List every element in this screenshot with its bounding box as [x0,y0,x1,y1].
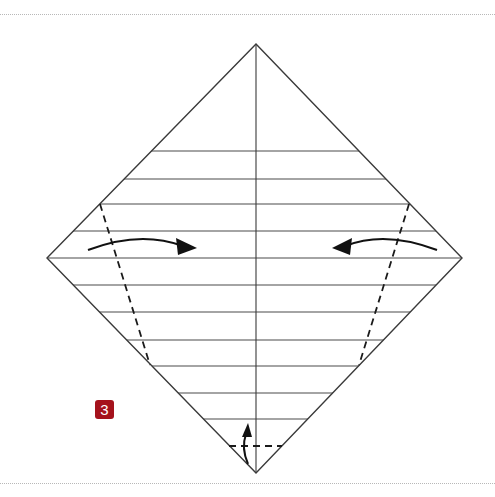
fold-up-arrow-icon [242,423,252,464]
fold-right-arrow-icon [88,238,197,255]
step-number-badge: 3 [95,400,114,419]
origami-diagram [0,0,495,497]
fold-left-arrow-icon [332,238,437,255]
pleat-lines [0,151,495,419]
